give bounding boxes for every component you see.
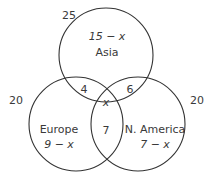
asia-europe-value: 4 [81,83,88,96]
namerica-label: N. America [125,123,186,136]
europe-only-value: 9 − x [44,138,74,151]
namerica-total: 20 [190,94,204,107]
asia-total: 25 [62,9,76,22]
namerica-only-value: 7 − x [140,138,170,151]
europe-total: 20 [9,94,23,107]
europe-label: Europe [40,123,79,136]
asia-namerica-value: 6 [127,83,134,96]
all-three-value: x [102,96,110,109]
europe-namerica-value: 7 [103,124,110,137]
venn-diagram: 25 20 20 15 − x Asia Europe 9 − x N. Ame… [0,0,211,179]
asia-label: Asia [95,46,118,59]
asia-only-value: 15 − x [89,30,126,43]
